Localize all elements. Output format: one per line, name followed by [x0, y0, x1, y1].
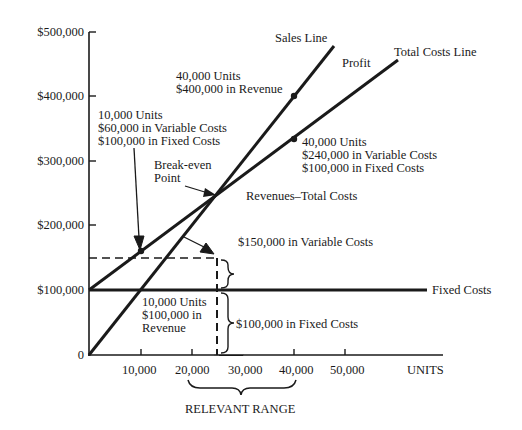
revenue-10k-line3: Revenue	[142, 322, 186, 335]
break-even-arrow-fix	[0, 0, 522, 430]
revenues-minus-costs-label: Revenues–Total Costs	[246, 190, 357, 203]
variable-costs-brace-label: $150,000 in Variable Costs	[238, 236, 373, 249]
fixed-costs-label: Fixed Costs	[432, 284, 491, 297]
fixed-costs-brace-label: $100,000 in Fixed Costs	[236, 318, 358, 331]
